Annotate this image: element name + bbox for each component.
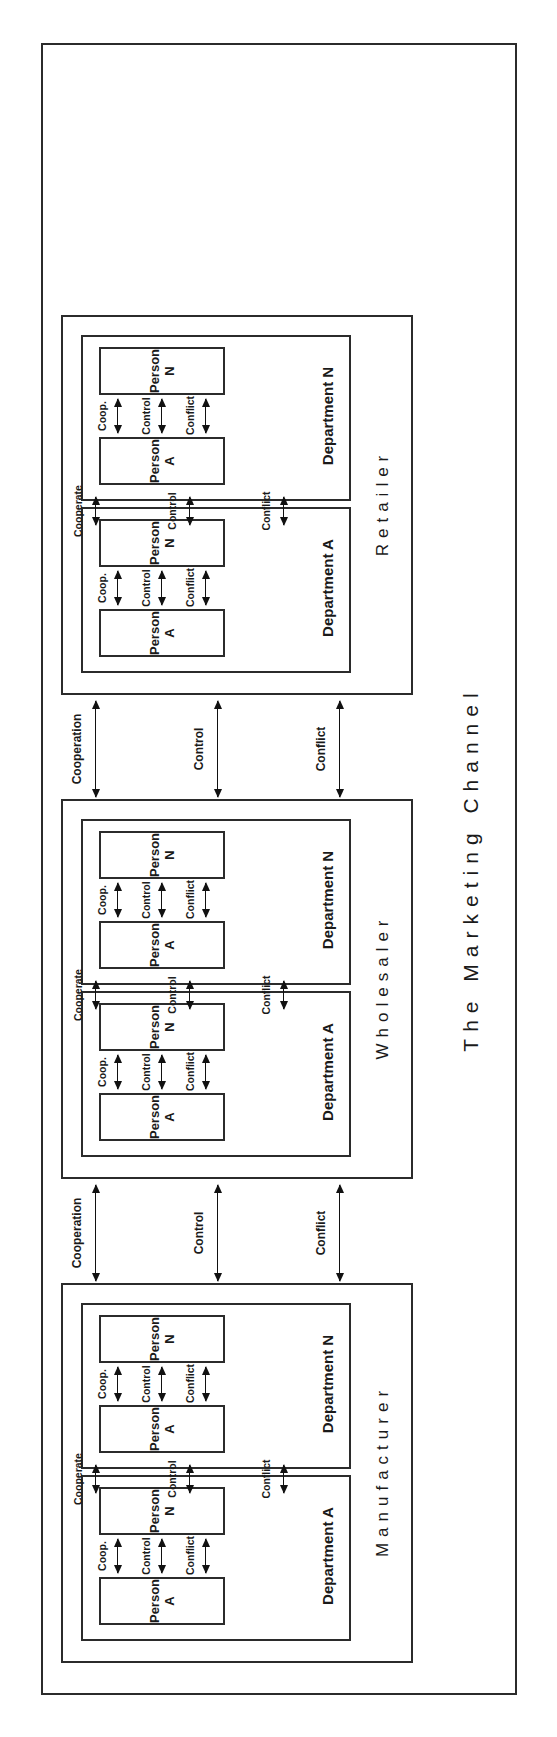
retailer-department-a[interactable]: Department A Person A Person N Coop. Con… (81, 507, 351, 673)
level-link-control[interactable]: Control (209, 1183, 229, 1283)
inter-dept-cooperate[interactable]: Cooperate (87, 981, 107, 1009)
connector-conflict[interactable]: Conflict (197, 881, 217, 919)
connector-label-conflict: Conflict (184, 569, 197, 607)
connector-label-control: Control (140, 1365, 153, 1403)
connector-conflict[interactable]: Conflict (197, 1365, 217, 1403)
connector-coop[interactable]: Coop. (109, 1537, 129, 1575)
manufacturer-department-a[interactable]: Department A Person A Person N Coop. Con… (81, 1475, 351, 1641)
intra-dept-connectors: Coop. Control Conflict (101, 1537, 225, 1575)
connector-coop[interactable]: Coop. (109, 397, 129, 435)
person-a-line2: A (162, 1424, 177, 1433)
connector-control[interactable]: Control (153, 397, 173, 435)
conflict-arrow-icon (205, 883, 206, 917)
person-box-n[interactable]: Person N (99, 347, 225, 395)
connector-label-control: Control (140, 1537, 153, 1575)
intra-dept-connectors: Coop. Control Conflict (101, 569, 225, 607)
inter-dept-label-control: Control (166, 965, 179, 1025)
level-wholesaler[interactable]: Wholesaler Department A Person A Person … (61, 799, 413, 1179)
connector-conflict[interactable]: Conflict (197, 1053, 217, 1091)
control-arrow-icon (161, 1367, 162, 1401)
conflict-arrow-icon (283, 1465, 284, 1493)
connector-coop[interactable]: Coop. (109, 1365, 129, 1403)
inter-dept-control[interactable]: Control (181, 497, 201, 525)
connector-coop[interactable]: Coop. (109, 881, 129, 919)
level-link-label-conflict: Conflict (314, 1183, 329, 1283)
inter-dept-conflict[interactable]: Conflict (275, 1465, 295, 1493)
wholesaler-department-a[interactable]: Department A Person A Person N Coop. Con… (81, 991, 351, 1157)
level-manufacturer[interactable]: Manufacturer Department A Person A Perso… (61, 1283, 413, 1663)
cooperation-arrow-icon (95, 1185, 96, 1281)
connector-label-conflict: Conflict (184, 1365, 197, 1403)
person-a-line2: A (162, 628, 177, 637)
coop-arrow-icon (117, 883, 118, 917)
level-link-control[interactable]: Control (209, 699, 229, 799)
person-box-a[interactable]: Person A (99, 437, 225, 485)
person-box-n[interactable]: Person N (99, 519, 225, 567)
cooperate-arrow-icon (95, 981, 96, 1009)
connector-coop[interactable]: Coop. (109, 569, 129, 607)
inter-dept-control[interactable]: Control (181, 1465, 201, 1493)
connector-control[interactable]: Control (153, 881, 173, 919)
figure-title: The Marketing Channel (441, 39, 501, 1699)
conflict-arrow-icon (339, 701, 340, 797)
retailer-department-n[interactable]: Department N Person A Person N Coop. Con… (81, 335, 351, 501)
person-a-line1: Person (147, 610, 162, 654)
coop-arrow-icon (117, 1539, 118, 1573)
connector-conflict[interactable]: Conflict (197, 397, 217, 435)
person-n-line1: Person (147, 832, 162, 876)
person-a-line1: Person (147, 438, 162, 482)
connector-label-control: Control (140, 397, 153, 435)
person-box-a[interactable]: Person A (99, 609, 225, 657)
inter-dept-conflict[interactable]: Conflict (275, 981, 295, 1009)
level-link-conflict[interactable]: Conflict (331, 1183, 351, 1283)
cooperate-arrow-icon (95, 497, 96, 525)
level-link-conflict[interactable]: Conflict (331, 699, 351, 799)
level-link-label-control: Control (192, 699, 207, 799)
level-link-label-conflict: Conflict (314, 699, 329, 799)
intra-dept-connectors: Coop. Control Conflict (101, 397, 225, 435)
inter-dept-label-cooperate: Cooperate (72, 476, 85, 546)
person-box-n[interactable]: Person N (99, 831, 225, 879)
person-a-line1: Person (147, 1406, 162, 1450)
connector-control[interactable]: Control (153, 1053, 173, 1091)
inter-dept-conflict[interactable]: Conflict (275, 497, 295, 525)
manufacturer-department-n[interactable]: Department N Person A Person N Coop. Con… (81, 1303, 351, 1469)
connector-label-conflict: Conflict (184, 1537, 197, 1575)
person-box-n[interactable]: Person N (99, 1003, 225, 1051)
cooperate-arrow-icon (95, 1465, 96, 1493)
inter-dept-cooperate[interactable]: Cooperate (87, 1465, 107, 1493)
level-retailer[interactable]: Retailer Department A Person A Person N … (61, 315, 413, 695)
control-arrow-icon (217, 1185, 218, 1281)
person-box-a[interactable]: Person A (99, 1093, 225, 1141)
inter-dept-label-control: Control (166, 1449, 179, 1509)
control-arrow-icon (189, 1465, 190, 1493)
inter-dept-label-control: Control (166, 481, 179, 541)
conflict-arrow-icon (283, 981, 284, 1009)
level-link-cooperation[interactable]: Cooperation (87, 699, 107, 799)
control-arrow-icon (217, 701, 218, 797)
level-label-retailer: Retailer (361, 313, 405, 693)
person-n-line1: Person (147, 1316, 162, 1360)
person-box-a[interactable]: Person A (99, 1405, 225, 1453)
level-link-label-control: Control (192, 1183, 207, 1283)
wholesaler-department-n[interactable]: Department N Person A Person N Coop. Con… (81, 819, 351, 985)
connector-conflict[interactable]: Conflict (197, 569, 217, 607)
person-box-n[interactable]: Person N (99, 1315, 225, 1363)
person-box-a[interactable]: Person A (99, 1577, 225, 1625)
inter-dept-cooperate[interactable]: Cooperate (87, 497, 107, 525)
connector-control[interactable]: Control (153, 569, 173, 607)
conflict-arrow-icon (205, 571, 206, 605)
person-box-a[interactable]: Person A (99, 921, 225, 969)
conflict-arrow-icon (205, 1055, 206, 1089)
inter-dept-control[interactable]: Control (181, 981, 201, 1009)
connector-control[interactable]: Control (153, 1537, 173, 1575)
connector-control[interactable]: Control (153, 1365, 173, 1403)
intra-dept-connectors: Coop. Control Conflict (101, 881, 225, 919)
person-box-n[interactable]: Person N (99, 1487, 225, 1535)
connector-conflict[interactable]: Conflict (197, 1537, 217, 1575)
connector-coop[interactable]: Coop. (109, 1053, 129, 1091)
connector-label-control: Control (140, 1053, 153, 1091)
level-link-cooperation[interactable]: Cooperation (87, 1183, 107, 1283)
cooperation-arrow-icon (95, 701, 96, 797)
level-label-wholesaler: Wholesaler (361, 797, 405, 1177)
